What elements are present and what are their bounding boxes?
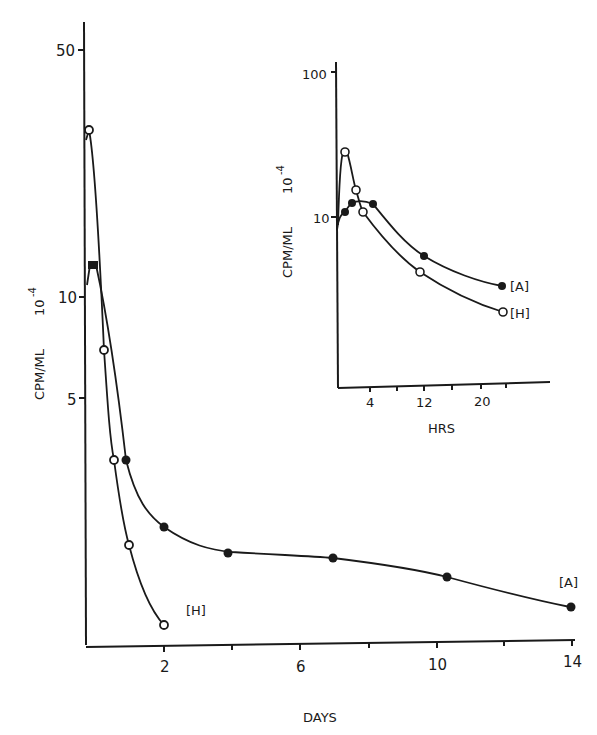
data-point	[498, 282, 506, 290]
inset-series-h-line	[338, 152, 503, 312]
data-point	[160, 621, 168, 629]
main-x-tick-label-14: 14	[563, 653, 582, 671]
data-point	[416, 268, 424, 276]
inset-y-tick-label-10: 10	[313, 211, 330, 226]
inset-x-axis-title: HRS	[428, 421, 455, 436]
main-y-axis-exponent-base: 10	[32, 299, 47, 316]
main-y-axis	[84, 22, 86, 645]
data-point	[359, 208, 367, 216]
inset-y-axis-title: CPM/ML 10 -4	[275, 165, 295, 278]
main-x-tick-label-10: 10	[428, 656, 447, 674]
inset-y-axis-unit: CPM/ML	[280, 226, 295, 278]
inset-y-axis-exponent-power: -4	[275, 165, 286, 175]
main-series-a-label: [A]	[559, 575, 578, 590]
data-point	[369, 200, 377, 208]
inset-chart: 100 10 4 12 20 HRS CPM/ML 10 -4	[275, 62, 550, 436]
data-point	[420, 252, 428, 260]
data-point	[125, 541, 133, 549]
data-point	[224, 549, 233, 558]
chart-canvas: 50 10 5 2 6 10 14 DAYS CPM/ML 10 -4	[0, 0, 597, 735]
main-y-axis-unit: CPM/ML	[32, 348, 47, 400]
main-y-tick-label-50: 50	[56, 42, 75, 60]
main-series-h-label: [H]	[186, 603, 206, 618]
main-series-h-line	[86, 130, 164, 625]
data-point	[443, 573, 452, 582]
data-point	[85, 126, 93, 134]
main-chart: 50 10 5 2 6 10 14 DAYS CPM/ML 10 -4	[27, 22, 582, 725]
data-point	[341, 148, 349, 156]
inset-series-h-markers	[341, 148, 507, 316]
data-point	[341, 208, 349, 216]
data-point	[348, 199, 356, 207]
main-x-tick-label-2: 2	[160, 658, 170, 676]
main-x-tick-label-6: 6	[296, 658, 306, 676]
main-x-axis	[86, 640, 575, 647]
data-point	[567, 603, 576, 612]
data-point	[100, 346, 108, 354]
data-point	[499, 308, 507, 316]
data-point	[122, 456, 131, 465]
main-y-tick-label-5: 5	[67, 391, 77, 409]
data-point	[160, 523, 169, 532]
main-series-a-line	[87, 265, 570, 607]
inset-y-axis-exponent-base: 10	[280, 177, 295, 194]
inset-x-tick-label-4: 4	[366, 395, 374, 410]
main-x-axis-title: DAYS	[303, 710, 337, 725]
main-y-axis-exponent-power: -4	[27, 287, 38, 297]
inset-x-tick-label-12: 12	[416, 395, 433, 410]
data-point	[88, 261, 98, 269]
data-point	[329, 554, 338, 563]
inset-x-tick-label-20: 20	[474, 394, 491, 409]
main-series-h-markers	[85, 126, 168, 629]
data-point	[352, 186, 360, 194]
data-point	[110, 456, 118, 464]
main-y-tick-label-10: 10	[58, 289, 77, 307]
inset-y-tick-label-100: 100	[302, 67, 327, 82]
main-y-axis-title: CPM/ML 10 -4	[27, 287, 47, 400]
inset-series-h-label: [H]	[510, 306, 530, 321]
inset-series-a-label: [A]	[510, 279, 529, 294]
